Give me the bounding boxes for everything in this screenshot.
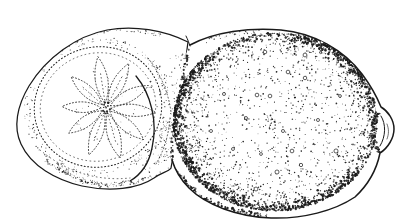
lemon-illustration (0, 0, 404, 223)
halved-lemon (17, 28, 188, 189)
halved-lemon-outline (17, 28, 188, 189)
illustration-page (0, 0, 404, 223)
whole-lemon-body (170, 29, 394, 218)
whole-lemon (168, 27, 394, 220)
